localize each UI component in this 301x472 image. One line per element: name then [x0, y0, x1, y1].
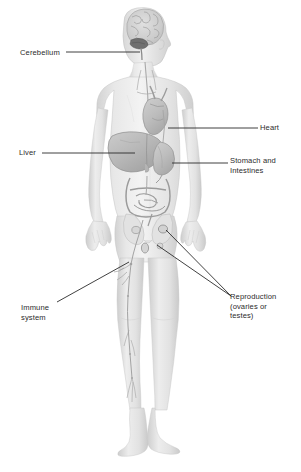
- label-stomach-and-intestines: Stomach and Intestines: [230, 156, 276, 175]
- label-reproduction: Reproduction (ovaries or testes): [230, 292, 276, 321]
- label-heart: Heart: [260, 123, 279, 133]
- anatomy-diagram-figure: Cerebellum Heart Liver Stomach and Intes…: [0, 0, 301, 472]
- label-liver: Liver: [19, 148, 36, 158]
- label-immune-system: Immune system: [21, 303, 49, 322]
- human-body-illustration: [0, 0, 301, 472]
- label-cerebellum: Cerebellum: [20, 48, 60, 58]
